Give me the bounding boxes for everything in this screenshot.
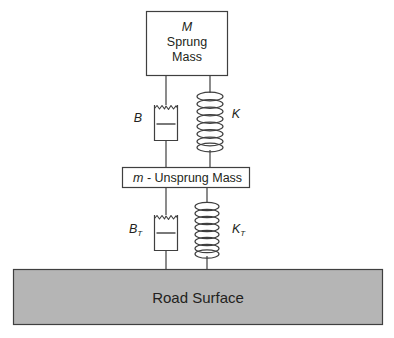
- sprung-mass-symbol: M: [182, 20, 193, 34]
- upper-damper-label: B: [134, 111, 142, 125]
- suspension-schematic-svg: M Sprung Mass B K: [0, 0, 394, 338]
- unsprung-mass-label: - Unsprung Mass: [147, 171, 242, 185]
- sprung-mass-line2: Mass: [172, 50, 202, 64]
- lower-spring-label: KT: [232, 222, 246, 238]
- lower-damper-label-base: B: [129, 222, 137, 236]
- unsprung-mass-text-group: m - Unsprung Mass: [133, 171, 242, 185]
- upper-spring-coil: [197, 92, 223, 152]
- sprung-mass-line1: Sprung: [167, 35, 207, 49]
- upper-damper-cup: [155, 105, 178, 141]
- suspension-diagram: M Sprung Mass B K: [0, 0, 394, 338]
- upper-spring-label: K: [232, 107, 241, 121]
- lower-spring-label-subscript: T: [240, 229, 246, 238]
- unsprung-mass-symbol: m: [133, 171, 143, 185]
- lower-spring-coil: [195, 202, 219, 258]
- road-surface-label: Road Surface: [152, 289, 244, 306]
- lower-damper-label-subscript: T: [137, 229, 143, 238]
- lower-damper-label: BT: [129, 222, 143, 238]
